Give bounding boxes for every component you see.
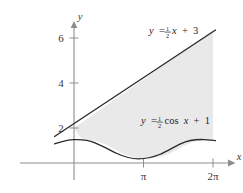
line-eqn-frac-denominator: 2	[166, 32, 169, 39]
line-eqn-frac-numerator: 1	[166, 25, 169, 32]
cos-eqn-lhs: y	[140, 115, 146, 126]
y-axis-label: y	[77, 11, 83, 22]
line-eqn-variable: x	[171, 25, 177, 36]
cos-eqn-frac-numerator: 1	[158, 115, 161, 122]
plot-canvas: 6 4 2 π 2π y x y = 1 2 x + 3 y	[0, 0, 243, 193]
y-tick-label-2: 2	[58, 122, 64, 134]
line-eqn-constant: 3	[193, 25, 198, 36]
math-figure: 6 4 2 π 2π y x y = 1 2 x + 3 y	[0, 0, 243, 193]
cos-eqn-frac-denominator: 2	[158, 122, 161, 129]
cos-eqn-function: cos	[165, 115, 179, 126]
line-eqn-lhs: y	[148, 25, 154, 36]
x-axis-label: x	[236, 151, 242, 162]
cos-eqn-plus: +	[194, 115, 200, 126]
shaded-region-between-curves	[74, 31, 213, 159]
equation-label-line: y = 1 2 x + 3	[148, 25, 198, 39]
y-axis-arrowhead	[71, 21, 78, 28]
line-eqn-equals: =	[159, 25, 165, 36]
line-eqn-plus: +	[182, 25, 188, 36]
svg-text:x + 3: x + 3	[171, 25, 198, 36]
x-tick-label-2pi: 2π	[207, 170, 219, 182]
cos-eqn-equals: =	[151, 115, 157, 126]
cos-eqn-variable: x	[183, 115, 189, 126]
x-tick-label-pi: π	[141, 170, 147, 182]
x-axis-arrowhead	[228, 160, 236, 167]
y-tick-label-4: 4	[58, 77, 64, 89]
y-tick-label-6: 6	[58, 32, 64, 44]
cos-eqn-constant: 1	[205, 115, 210, 126]
svg-text:y =: y =	[148, 25, 165, 36]
